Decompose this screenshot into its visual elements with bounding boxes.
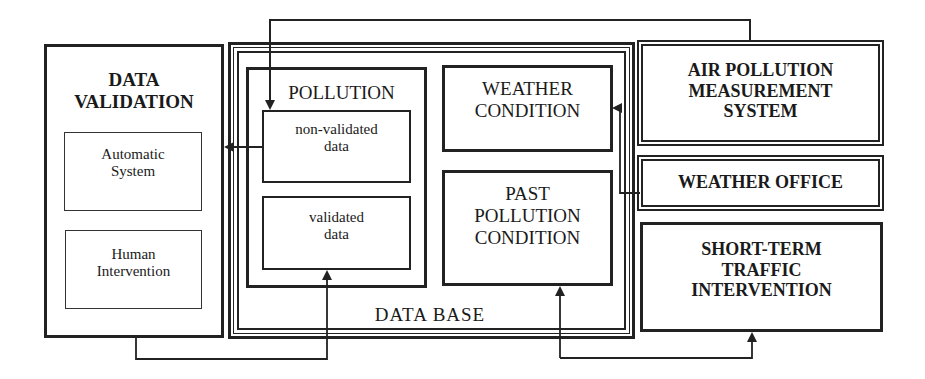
weather-office-label: WEATHER OFFICE: [643, 172, 878, 193]
validated-data-box: validated data: [262, 196, 411, 270]
weather-condition-box: WEATHER CONDITION: [442, 65, 613, 152]
non-validated-data-box: non-validated data: [262, 110, 411, 183]
automatic-system-box: Automatic System: [64, 132, 202, 211]
short-term-traffic-intervention-label: SHORT-TERM TRAFFIC INTERVENTION: [643, 239, 880, 301]
weather-office-box: WEATHER OFFICE: [637, 155, 884, 211]
non-validated-data-label: non-validated data: [264, 121, 409, 156]
human-intervention-label: Human Intervention: [66, 246, 201, 281]
data-validation-title: DATA VALIDATION: [47, 69, 221, 113]
validated-data-label: validated data: [264, 209, 409, 244]
past-pollution-condition-box: PAST POLLUTION CONDITION: [442, 170, 613, 286]
pollution-title: POLLUTION: [259, 82, 424, 104]
data-base-label: DATA BASE: [330, 304, 530, 321]
air-pollution-measurement-system-label: AIR POLLUTION MEASUREMENT SYSTEM: [643, 60, 878, 122]
automatic-system-label: Automatic System: [65, 146, 201, 181]
short-term-traffic-intervention-box: SHORT-TERM TRAFFIC INTERVENTION: [640, 222, 883, 332]
past-pollution-condition-label: PAST POLLUTION CONDITION: [445, 183, 610, 249]
weather-condition-label: WEATHER CONDITION: [445, 78, 610, 122]
air-pollution-measurement-system-box: AIR POLLUTION MEASUREMENT SYSTEM: [637, 40, 884, 146]
human-intervention-box: Human Intervention: [65, 230, 202, 309]
